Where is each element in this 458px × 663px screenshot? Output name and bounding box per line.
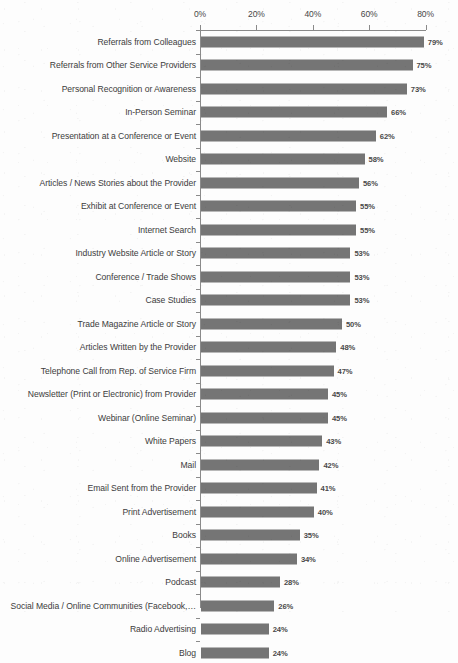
bar[interactable] <box>201 201 356 212</box>
bar[interactable] <box>201 318 342 329</box>
y-axis-tick-mark <box>196 359 200 360</box>
bar-row[interactable]: Podcast28% <box>0 571 458 595</box>
bar[interactable] <box>201 83 407 94</box>
bar[interactable] <box>201 436 322 447</box>
y-axis-tick-mark <box>196 524 200 525</box>
bar-row[interactable]: White Papers43% <box>0 430 458 454</box>
bar-row[interactable]: Conference / Trade Shows53% <box>0 265 458 289</box>
category-label: Case Studies <box>145 295 196 305</box>
y-axis-tick-mark <box>196 547 200 548</box>
bar[interactable] <box>201 577 280 588</box>
bar[interactable] <box>201 412 328 423</box>
bar-row[interactable]: Trade Magazine Article or Story50% <box>0 312 458 336</box>
x-axis-tick-label: 20% <box>248 9 265 19</box>
bar-row[interactable]: Industry Website Article or Story53% <box>0 242 458 266</box>
y-axis-tick-mark <box>196 30 200 31</box>
bar-value-label: 56% <box>363 178 378 187</box>
bar[interactable] <box>201 177 359 188</box>
category-label: Mail <box>180 460 196 470</box>
bar-value-label: 73% <box>411 84 426 93</box>
bar[interactable] <box>201 647 269 658</box>
x-axis-tick-label: 80% <box>417 9 434 19</box>
y-axis-tick-mark <box>196 77 200 78</box>
bar-value-label: 42% <box>323 460 338 469</box>
bar-value-label: 26% <box>278 601 293 610</box>
bar-row[interactable]: Case Studies53% <box>0 289 458 313</box>
y-axis-tick-mark <box>196 265 200 266</box>
y-axis-tick-mark <box>196 383 200 384</box>
bar[interactable] <box>201 624 269 635</box>
bar-row[interactable]: Books35% <box>0 524 458 548</box>
category-label: Online Advertisement <box>115 554 196 564</box>
bar[interactable] <box>201 271 350 282</box>
category-label: Referrals from Other Service Providers <box>50 60 196 70</box>
bar[interactable] <box>201 154 365 165</box>
bar-row[interactable]: Articles / News Stories about the Provid… <box>0 171 458 195</box>
y-axis-tick-mark <box>196 218 200 219</box>
bar-row[interactable]: Online Advertisement34% <box>0 547 458 571</box>
bar[interactable] <box>201 107 387 118</box>
bar[interactable] <box>201 130 376 141</box>
bar-row[interactable]: Blog24% <box>0 641 458 663</box>
bar-value-label: 50% <box>346 319 361 328</box>
y-axis-tick-mark <box>196 641 200 642</box>
category-label: Presentation at a Conference or Event <box>52 131 196 141</box>
bar-value-label: 53% <box>354 296 369 305</box>
bar-value-label: 28% <box>284 578 299 587</box>
bar[interactable] <box>201 530 300 541</box>
y-axis-tick-mark <box>196 171 200 172</box>
y-axis-tick-mark <box>196 312 200 313</box>
category-label: Blog <box>179 648 196 658</box>
bar-row[interactable]: Personal Recognition or Awareness73% <box>0 77 458 101</box>
bar[interactable] <box>201 365 334 376</box>
y-axis-tick-mark <box>196 195 200 196</box>
bar[interactable] <box>201 600 274 611</box>
x-axis-tick-label: 0% <box>194 9 206 19</box>
category-label: Exhibit at Conference or Event <box>81 201 196 211</box>
bar[interactable] <box>201 506 314 517</box>
bar[interactable] <box>201 295 350 306</box>
bar[interactable] <box>201 553 297 564</box>
bar-row[interactable]: In-Person Seminar66% <box>0 101 458 125</box>
bar-row[interactable]: Referrals from Colleagues79% <box>0 30 458 54</box>
x-axis-tick-mark <box>426 25 427 30</box>
bar-row[interactable]: Exhibit at Conference or Event55% <box>0 195 458 219</box>
bar-row[interactable]: Radio Advertising24% <box>0 618 458 642</box>
y-axis-tick-mark <box>196 148 200 149</box>
bar-row[interactable]: Referrals from Other Service Providers75… <box>0 54 458 78</box>
bar[interactable] <box>201 248 350 259</box>
bar-row[interactable]: Email Sent from the Provider41% <box>0 477 458 501</box>
bar-value-label: 43% <box>326 437 341 446</box>
bar-row[interactable]: Articles Written by the Provider48% <box>0 336 458 360</box>
bar[interactable] <box>201 224 356 235</box>
bar-value-label: 48% <box>340 343 355 352</box>
bar-row[interactable]: Webinar (Online Seminar)45% <box>0 406 458 430</box>
category-label: Website <box>165 154 196 164</box>
bar-value-label: 55% <box>360 225 375 234</box>
bar-row[interactable]: Internet Search55% <box>0 218 458 242</box>
bar-row[interactable]: Website58% <box>0 148 458 172</box>
y-axis-tick-mark <box>196 336 200 337</box>
y-axis-tick-mark <box>196 500 200 501</box>
bar[interactable] <box>201 389 328 400</box>
bar[interactable] <box>201 60 413 71</box>
bar-row[interactable]: Telephone Call from Rep. of Service Firm… <box>0 359 458 383</box>
bar[interactable] <box>201 342 336 353</box>
bar[interactable] <box>201 36 424 47</box>
x-axis-tick-mark <box>313 25 314 30</box>
y-axis-tick-mark <box>196 477 200 478</box>
y-axis-tick-mark <box>196 594 200 595</box>
bar-row[interactable]: Print Advertisement40% <box>0 500 458 524</box>
category-label: Telephone Call from Rep. of Service Firm <box>41 366 196 376</box>
category-label: Articles / News Stories about the Provid… <box>40 178 196 188</box>
y-axis-tick-mark <box>196 453 200 454</box>
category-label: Print Advertisement <box>122 507 196 517</box>
bar-value-label: 40% <box>318 507 333 516</box>
bar-row[interactable]: Presentation at a Conference or Event62% <box>0 124 458 148</box>
bar[interactable] <box>201 459 319 470</box>
bar-row[interactable]: Social Media / Online Communities (Faceb… <box>0 594 458 618</box>
y-axis-tick-mark <box>196 618 200 619</box>
bar[interactable] <box>201 483 317 494</box>
bar-row[interactable]: Newsletter (Print or Electronic) from Pr… <box>0 383 458 407</box>
bar-row[interactable]: Mail42% <box>0 453 458 477</box>
